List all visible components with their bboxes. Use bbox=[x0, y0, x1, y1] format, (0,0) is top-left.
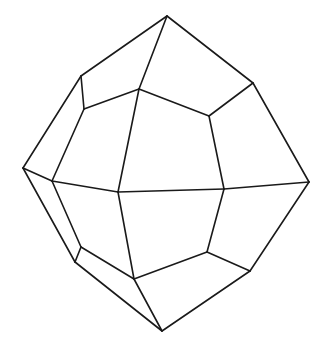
edge-M-N bbox=[81, 247, 134, 279]
edge-A-D bbox=[167, 16, 253, 83]
edge-L-M bbox=[75, 247, 81, 262]
edge-O-P bbox=[207, 252, 250, 271]
edge-C-I bbox=[118, 89, 139, 192]
edge-C-F bbox=[139, 89, 209, 116]
edge-B-G bbox=[23, 76, 81, 168]
polyhedron-diagram bbox=[0, 0, 326, 346]
edge-K-P bbox=[250, 182, 309, 271]
edge-N-O bbox=[134, 252, 207, 279]
edge-A-B bbox=[81, 16, 167, 76]
edge-L-Q bbox=[75, 262, 162, 331]
edge-J-K bbox=[224, 182, 309, 189]
edge-A-C bbox=[139, 16, 167, 89]
edge-H-I bbox=[52, 181, 118, 192]
edge-D-F bbox=[209, 83, 253, 116]
edge-C-E bbox=[84, 89, 139, 109]
edge-F-J bbox=[209, 116, 224, 189]
edge-I-N bbox=[118, 192, 134, 279]
edge-E-H bbox=[52, 109, 84, 181]
edge-N-Q bbox=[134, 279, 162, 331]
edge-I-J bbox=[118, 189, 224, 192]
edge-B-E bbox=[81, 76, 84, 109]
polyhedron-drawing bbox=[0, 0, 326, 346]
edge-H-M bbox=[52, 181, 81, 247]
edge-P-Q bbox=[162, 271, 250, 331]
edge-J-O bbox=[207, 189, 224, 252]
edge-D-K bbox=[253, 83, 309, 182]
